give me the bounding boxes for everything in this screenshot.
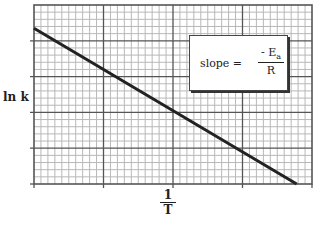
slope-numerator: - Ea bbox=[258, 46, 284, 63]
y-axis-label: ln k bbox=[3, 90, 29, 104]
slope-annotation-box: slope = - Ea R bbox=[189, 35, 288, 91]
x-axis-label-denominator: T bbox=[160, 203, 176, 217]
slope-denominator: R bbox=[258, 63, 284, 77]
x-axis-label: 1 T bbox=[160, 188, 176, 217]
slope-label: slope = bbox=[200, 57, 242, 70]
chart-canvas bbox=[0, 0, 316, 225]
x-axis-label-numerator: 1 bbox=[160, 188, 176, 203]
slope-fraction: - Ea R bbox=[258, 46, 284, 77]
